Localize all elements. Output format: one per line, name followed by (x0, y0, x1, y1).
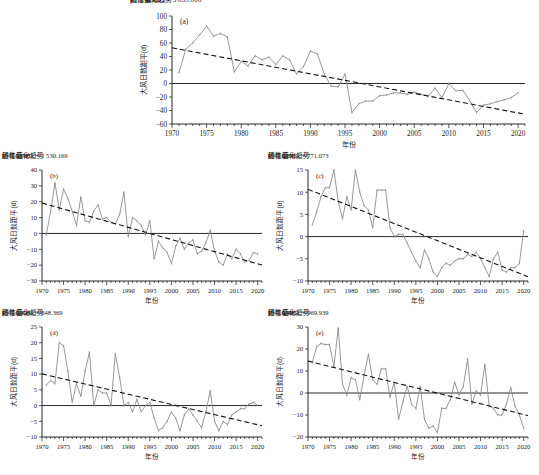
x-tick-label: 1985 (366, 443, 380, 450)
y-tick-label: 10 (30, 214, 37, 221)
legend-trend-label: 线性变化趋势 (130, 0, 172, 4)
y-tick-label: −20 (156, 94, 168, 102)
y-axis-title: 大风日数距平(d) (9, 200, 18, 250)
chart-panel-e: −20−100102030197019751980198519901995200… (268, 315, 536, 473)
x-tick-label: 1975 (57, 443, 71, 450)
x-tick-label: 1985 (366, 287, 380, 294)
y-tick-label: 80 (160, 26, 168, 34)
y-axis-title: 大风日数距平(d) (9, 357, 18, 407)
y-tick-label: 30 (296, 323, 303, 330)
x-tick-label: 1970 (35, 443, 49, 450)
panel-letter: (e) (316, 329, 324, 337)
y-tick-label: −5 (30, 418, 38, 425)
x-tick-label: 2010 (474, 443, 488, 450)
panel-letter: (b) (50, 172, 58, 180)
chart-svg: −10−505101520251970197519801985199019952… (2, 315, 270, 473)
x-tick-label: 1980 (345, 287, 359, 294)
y-axis-title: 大风日数距平(d) (139, 45, 148, 96)
x-tick-label: 1980 (79, 287, 93, 294)
x-tick-label: 1995 (409, 287, 423, 294)
y-tick-label: 0 (300, 389, 304, 396)
linear-trend-line (308, 361, 528, 415)
x-tick-label: 2010 (208, 443, 222, 450)
y-tick-label: −10 (293, 411, 304, 418)
x-axis-title: 年份 (145, 296, 159, 305)
x-tick-label: 1975 (323, 443, 337, 450)
y-tick-label: −10 (27, 246, 38, 253)
linear-trend-line (42, 203, 262, 265)
x-tick-label: 1975 (57, 287, 71, 294)
legend-trend-label: 线性变化趋势 (2, 308, 44, 317)
y-tick-label: 40 (160, 53, 168, 61)
x-tick-label: 1990 (388, 443, 402, 450)
x-tick-label: 1995 (409, 443, 423, 450)
x-tick-label: 2015 (230, 287, 244, 294)
x-tick-label: 2005 (452, 443, 466, 450)
x-tick-label: 2005 (407, 130, 422, 138)
y-tick-label: −20 (293, 433, 304, 440)
y-tick-label: 0 (163, 80, 167, 88)
x-axis-title: 年份 (411, 452, 425, 461)
x-tick-label: 1975 (323, 287, 337, 294)
legend-trend-label: 线性变化趋势 (268, 308, 310, 317)
y-tick-label: 10 (296, 367, 303, 374)
annual-value-series (179, 26, 518, 112)
x-axis-title: 年份 (411, 296, 425, 305)
annual-value-series (312, 328, 523, 433)
annual-value-series (46, 343, 257, 431)
x-tick-label: 2015 (476, 130, 491, 138)
x-tick-label: 2020 (517, 287, 531, 294)
x-tick-label: 2000 (431, 443, 445, 450)
chart-svg: −10−505101519701975198019851990199520002… (268, 158, 536, 313)
chart-svg: −20−100102030197019751980198519901995200… (268, 315, 536, 473)
chart-svg: −30−20−100102030401970197519801985199019… (2, 158, 270, 313)
y-tick-label: 10 (296, 189, 303, 196)
panel-letter: (d) (50, 329, 58, 337)
x-tick-label: 2005 (186, 287, 200, 294)
x-tick-label: 1970 (35, 287, 49, 294)
y-tick-label: 20 (30, 198, 37, 205)
x-tick-label: 2000 (372, 130, 387, 138)
panel-letter: (a) (180, 17, 189, 26)
x-tick-label: 1970 (165, 130, 180, 138)
y-tick-label: −10 (27, 433, 38, 440)
chart-panel-c: −10−505101519701975198019851990199520002… (268, 158, 536, 313)
y-tick-label: −5 (296, 255, 304, 262)
x-tick-label: 2020 (517, 443, 531, 450)
panel-letter: (c) (316, 172, 324, 180)
x-tick-label: 1995 (143, 443, 157, 450)
x-tick-label: 1990 (122, 287, 136, 294)
y-tick-label: 0 (34, 402, 38, 409)
x-tick-label: 1990 (388, 287, 402, 294)
y-tick-label: −30 (27, 277, 38, 284)
x-tick-label: 1970 (301, 443, 315, 450)
y-axis-title: 大风日数距平(d) (275, 357, 284, 407)
x-tick-label: 1985 (100, 287, 114, 294)
x-tick-label: 1985 (100, 443, 114, 450)
linear-trend-line (42, 374, 262, 426)
y-tick-label: −60 (156, 121, 168, 129)
y-tick-label: 10 (30, 370, 37, 377)
chart-panel-d: −10−505101520251970197519801985199019952… (2, 315, 270, 473)
y-tick-label: 15 (30, 355, 37, 362)
x-tick-label: 2000 (165, 443, 179, 450)
y-tick-label: 20 (296, 345, 303, 352)
x-tick-label: 2020 (251, 443, 265, 450)
x-tick-label: 1980 (234, 130, 249, 138)
x-tick-label: 2015 (230, 443, 244, 450)
x-tick-label: 2000 (165, 287, 179, 294)
y-tick-label: 60 (160, 40, 168, 48)
legend-trend-label: 线性变化趋势 (268, 151, 310, 160)
x-tick-label: 2005 (452, 287, 466, 294)
y-tick-label: 30 (30, 182, 37, 189)
linear-trend-line (172, 48, 525, 114)
x-tick-label: 1975 (199, 130, 214, 138)
y-axis-title: 大风日数距平(d) (275, 200, 284, 250)
x-tick-label: 2000 (431, 287, 445, 294)
y-tick-label: 5 (300, 211, 304, 218)
x-tick-label: 2015 (496, 287, 510, 294)
y-tick-label: 20 (30, 339, 37, 346)
x-tick-label: 1980 (345, 443, 359, 450)
x-tick-label: 1995 (338, 130, 353, 138)
x-tick-label: 1970 (301, 287, 315, 294)
